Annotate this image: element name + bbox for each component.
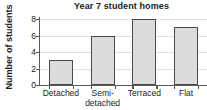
chart-title: Year 7 student homes xyxy=(36,1,207,11)
y-tick-mark xyxy=(36,36,39,37)
y-tick-mark xyxy=(36,52,39,53)
bar xyxy=(132,19,156,85)
y-tick-mark xyxy=(36,85,39,86)
y-tick-mark xyxy=(36,19,39,20)
y-tick-label: 2 xyxy=(24,65,36,74)
plot-area xyxy=(40,19,207,85)
bar xyxy=(49,60,73,85)
y-axis-line xyxy=(39,17,40,86)
y-axis-title: Number of students xyxy=(4,0,14,97)
bar xyxy=(174,27,198,85)
gridline xyxy=(40,19,207,20)
x-axis-line xyxy=(36,85,207,86)
bar-chart: Year 7 student homes Number of students … xyxy=(0,0,207,110)
bar xyxy=(91,36,115,86)
y-tick-label: 8 xyxy=(24,15,36,24)
y-tick-label: 4 xyxy=(24,48,36,57)
y-tick-label: 6 xyxy=(24,32,36,41)
y-tick-mark xyxy=(36,69,39,70)
x-tick-label: Flat xyxy=(158,88,207,98)
